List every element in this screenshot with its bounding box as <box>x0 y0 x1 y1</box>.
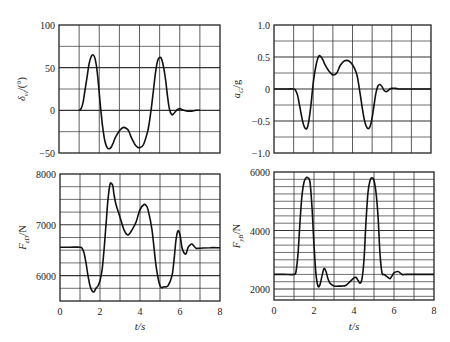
chart-vertical-force: 60007000800002468FzD/N <box>17 169 223 317</box>
chart-lateral-acceleration: −1.0−0.500.51.0aG/g <box>231 20 431 159</box>
y-tick-label: 7000 <box>36 220 56 231</box>
x-tick-label: 8 <box>218 306 223 317</box>
y-tick-labels: −1.0−0.500.51.0 <box>252 20 270 159</box>
x-tick-labels: 02468 <box>58 306 223 317</box>
x-tick-label: 8 <box>432 305 437 316</box>
y-tick-label: 1.0 <box>258 20 271 31</box>
x-tick-label: 0 <box>272 305 277 316</box>
y-tick-labels: 200040006000 <box>250 167 270 295</box>
y-tick-label: 6000 <box>250 167 270 178</box>
figure-canvas: −50050100δvl/(°) −1.0−0.500.51.0aG/g 600… <box>0 0 450 342</box>
grid-lines <box>59 25 220 153</box>
x-tick-label: 4 <box>138 306 143 317</box>
y-tick-label: 4000 <box>250 226 270 237</box>
y-tick-label: 50 <box>45 63 55 74</box>
x-tick-label: 4 <box>352 305 357 316</box>
y-axis-label: FyB/N <box>231 223 245 249</box>
y-tick-label: −0.5 <box>252 116 270 127</box>
y-tick-label: 0 <box>265 84 270 95</box>
x-tick-label: 2 <box>98 306 103 317</box>
y-tick-label: 8000 <box>36 169 56 180</box>
y-axis-label: δvl/(°) <box>16 76 30 101</box>
x-axis-label-right: t/s <box>349 320 359 332</box>
y-tick-label: 2000 <box>250 284 270 295</box>
y-tick-label: 0.5 <box>258 52 271 63</box>
x-tick-label: 6 <box>178 306 183 317</box>
y-tick-label: −1.0 <box>252 148 270 159</box>
y-axis-label: FzD/N <box>17 225 31 251</box>
x-tick-label: 2 <box>312 305 317 316</box>
chart-lateral-force: 20004000600002468FyB/N <box>231 167 437 316</box>
y-tick-label: 6000 <box>36 271 56 282</box>
x-tick-label: 0 <box>58 306 63 317</box>
grid-lines <box>60 174 220 301</box>
y-tick-labels: −50050100 <box>39 20 55 159</box>
x-tick-label: 6 <box>392 305 397 316</box>
x-tick-labels: 02468 <box>272 305 437 316</box>
chart-steering-angle: −50050100δvl/(°) <box>16 20 220 159</box>
grid-lines <box>274 172 434 300</box>
y-tick-label: 100 <box>40 20 55 31</box>
x-axis-label-left: t/s <box>135 320 145 332</box>
y-tick-labels: 600070008000 <box>36 169 56 282</box>
y-axis-label: aG/g <box>231 79 245 98</box>
y-tick-label: 0 <box>50 105 55 116</box>
y-tick-label: −50 <box>39 148 55 159</box>
